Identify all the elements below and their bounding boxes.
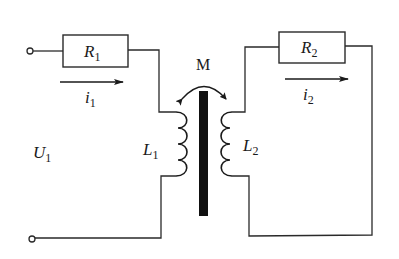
iron-core xyxy=(199,91,208,216)
wire-l1-to-bottom xyxy=(35,176,176,238)
label-i2: i2 xyxy=(303,85,314,107)
label-i1: i1 xyxy=(85,88,96,110)
circuit-diagram: R1 R2 i1 i2 U1 L1 L2 M xyxy=(0,0,399,259)
label-l2: L2 xyxy=(242,136,258,158)
wire-r2-loop xyxy=(232,46,372,236)
secondary-circuit xyxy=(221,32,372,236)
wire-l2-to-r2 xyxy=(232,47,279,112)
label-mutual-inductance: M xyxy=(196,56,210,73)
inductor-l2 xyxy=(221,112,232,176)
label-l1: L1 xyxy=(142,140,158,162)
wire-r1-to-l1 xyxy=(128,50,176,112)
inductor-l1 xyxy=(176,112,187,176)
label-u1: U1 xyxy=(33,143,51,165)
input-terminal-bottom xyxy=(29,236,35,242)
input-terminal-top xyxy=(27,48,33,54)
primary-circuit xyxy=(27,35,187,242)
